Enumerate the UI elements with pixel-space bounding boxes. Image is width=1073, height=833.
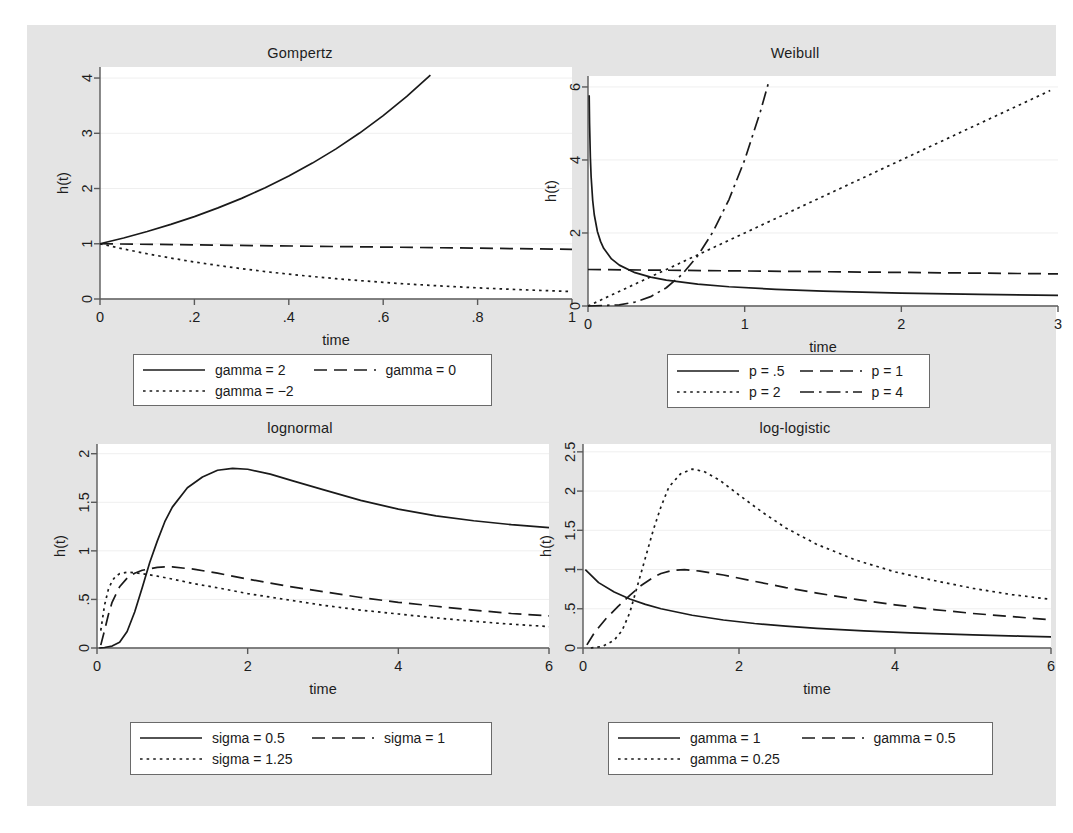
y-tick-label: .5: [76, 593, 92, 605]
legend-label: gamma = 0: [386, 362, 456, 378]
plot-area: [100, 67, 572, 299]
legend-key-icon: [313, 364, 377, 376]
y-tick-label: 1: [562, 565, 578, 573]
y-tick-label: 1: [76, 547, 92, 555]
legend-label: gamma = −2: [215, 383, 294, 399]
x-tick-label: 2: [735, 658, 743, 674]
x-axis-title: time: [809, 339, 836, 355]
x-axis-title: time: [309, 681, 336, 697]
legend-label: gamma = 1: [690, 730, 760, 746]
legend-label: sigma = 1.25: [212, 751, 293, 767]
legend-key-icon: [617, 732, 681, 744]
legend-key-icon: [139, 753, 203, 765]
legend-entry: sigma = 1.25: [139, 749, 311, 770]
y-tick-label: 2: [567, 229, 583, 237]
panel-loglogistic: log-logistic 0.511.522.50246timeh(t): [545, 420, 1045, 710]
legend-entry: p = 1: [799, 360, 922, 381]
legend-gompertz: gamma = 2gamma = 0gamma = −2: [133, 354, 492, 406]
y-tick-label: 0: [567, 302, 583, 310]
figure-root: Gompertz 012340.2.4.6.81timeh(t) gamma =…: [0, 0, 1073, 833]
x-tick-label: 6: [1047, 658, 1055, 674]
legend-key-icon: [142, 385, 206, 397]
legend-entry: gamma = −2: [142, 380, 313, 401]
legend-key-icon: [799, 386, 863, 398]
legend-label: gamma = 0.25: [690, 751, 780, 767]
x-tick-label: .4: [283, 309, 295, 325]
y-tick-label: 1.5: [562, 520, 578, 540]
y-tick-label: 2: [79, 184, 95, 192]
legend-key-icon: [801, 732, 865, 744]
x-tick-label: .6: [377, 309, 389, 325]
y-tick-label: .5: [562, 603, 578, 615]
panel-gompertz: Gompertz 012340.2.4.6.81timeh(t): [60, 45, 540, 335]
legend-entry: p = 4: [799, 381, 922, 402]
legend-key-icon: [311, 732, 375, 744]
y-tick-label: 4: [567, 156, 583, 164]
x-tick-label: 0: [93, 658, 101, 674]
y-axis-title: h(t): [538, 535, 554, 557]
x-tick-label: 2: [244, 658, 252, 674]
x-tick-label: 4: [891, 658, 899, 674]
legend-label: gamma = 2: [215, 362, 285, 378]
legend-key-icon: [142, 364, 206, 376]
plot-gompertz: 012340.2.4.6.81timeh(t): [60, 45, 540, 335]
legend-key-icon: [799, 365, 863, 377]
legend-entry: gamma = 1: [617, 728, 801, 749]
x-axis-title: time: [322, 332, 349, 348]
legend-entry: p = 2: [676, 381, 799, 402]
x-tick-label: .2: [188, 309, 200, 325]
y-tick-label: 1.5: [76, 492, 92, 512]
panel-weibull: Weibull 02460123timeh(t): [545, 45, 1045, 335]
plot-weibull: 02460123timeh(t): [545, 45, 1045, 335]
legend-key-icon: [139, 732, 203, 744]
legend-grid-lognormal: sigma = 0.5sigma = 1sigma = 1.25: [131, 723, 491, 774]
y-tick-label: 0: [79, 295, 95, 303]
x-tick-label: 0: [584, 316, 592, 332]
legend-entry: gamma = 2: [142, 359, 313, 380]
plot-area: [97, 444, 549, 648]
legend-entry: gamma = 0.25: [617, 749, 801, 770]
panel-lognormal: lognormal 0.511.520246timeh(t): [60, 420, 540, 710]
y-tick-label: 2: [562, 487, 578, 495]
y-tick-label: 6: [567, 83, 583, 91]
legend-label: p = 2: [749, 384, 781, 400]
legend-entry: p = .5: [676, 360, 799, 381]
plot-loglogistic: 0.511.522.50246timeh(t): [545, 420, 1045, 710]
legend-loglogistic: gamma = 1gamma = 0.5gamma = 0.25: [608, 722, 993, 775]
legend-key-icon: [617, 753, 681, 765]
y-axis-title: h(t): [52, 535, 68, 557]
y-tick-label: 4: [79, 74, 95, 82]
y-tick-label: 1: [79, 240, 95, 248]
plot-lognormal: 0.511.520246timeh(t): [60, 420, 540, 710]
x-tick-label: 3: [1054, 316, 1062, 332]
legend-label: p = .5: [749, 363, 784, 379]
legend-weibull: p = .5p = 1p = 2p = 4: [667, 354, 930, 408]
y-tick-label: 3: [79, 129, 95, 137]
x-tick-label: 4: [394, 658, 402, 674]
x-tick-label: 1: [741, 316, 749, 332]
y-tick-label: 2.5: [562, 442, 578, 462]
y-tick-label: 0: [76, 644, 92, 652]
y-tick-label: 0: [562, 644, 578, 652]
legend-grid-gompertz: gamma = 2gamma = 0gamma = −2: [134, 355, 491, 405]
plot-area: [583, 444, 1051, 648]
legend-grid-loglogistic: gamma = 1gamma = 0.5gamma = 0.25: [609, 723, 992, 774]
y-tick-label: 2: [76, 450, 92, 458]
legend-entry: sigma = 0.5: [139, 728, 311, 749]
legend-grid-weibull: p = .5p = 1p = 2p = 4: [668, 355, 929, 407]
y-axis-title: h(t): [55, 172, 71, 194]
legend-label: gamma = 0.5: [874, 730, 956, 746]
x-tick-label: 0: [579, 658, 587, 674]
x-axis-title: time: [803, 681, 830, 697]
legend-key-icon: [676, 386, 740, 398]
legend-lognormal: sigma = 0.5sigma = 1sigma = 1.25: [130, 722, 492, 775]
legend-label: p = 4: [872, 384, 904, 400]
legend-label: sigma = 1: [384, 730, 445, 746]
legend-entry: gamma = 0: [313, 359, 484, 380]
legend-entry: gamma = 0.5: [801, 728, 985, 749]
x-tick-label: .8: [472, 309, 484, 325]
x-tick-label: 2: [897, 316, 905, 332]
legend-label: sigma = 0.5: [212, 730, 285, 746]
y-axis-title: h(t): [543, 180, 559, 202]
x-tick-label: 0: [96, 309, 104, 325]
